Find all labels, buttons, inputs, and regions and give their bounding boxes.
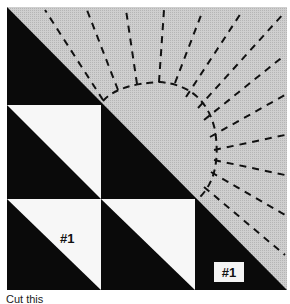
piece-label-left: #1 [60, 232, 74, 245]
quilt-block-diagram [0, 0, 290, 304]
figure-caption: Cut this [6, 294, 43, 304]
piece-label-right: #1 [214, 262, 244, 282]
